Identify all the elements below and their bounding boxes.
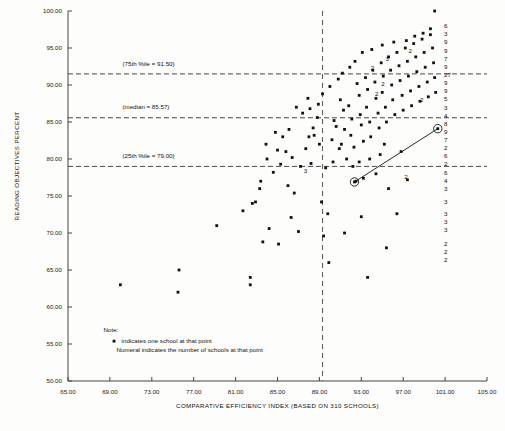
data-point [387,187,390,190]
data-point [361,51,364,54]
data-point [366,88,369,91]
numeral-count-label: 2 [444,256,448,263]
numeral-count-label: 2 [444,160,448,167]
data-point [407,75,410,78]
data-point [433,76,436,79]
data-point [369,135,372,138]
numeral-count-label: 6 [444,169,448,176]
x-axis-tick-label: 77.00 [186,388,202,395]
data-point [312,127,315,130]
data-point [304,147,307,150]
data-point [178,269,181,272]
plot-canvas: 65.0069.0073.0077.0081.0085.0089.0093.00… [0,0,505,431]
data-point [318,143,321,146]
data-point [299,165,302,168]
data-point [272,171,275,174]
x-axis-tick-label: 65.00 [60,388,76,395]
numeral-count-label: 3 [444,30,448,37]
x-axis-tick-label: 97.00 [395,388,411,395]
numeral-count-label: 3 [444,218,448,225]
x-axis-tick-label: 69.00 [102,388,118,395]
data-point [418,85,421,88]
y-axis-tick-label: 55.00 [47,340,63,347]
data-point [349,134,352,137]
data-point [412,42,415,45]
data-point [345,158,348,161]
data-point [342,109,345,112]
data-point [370,48,373,51]
numeral-count-label: 4 [444,177,448,184]
numeral-count-label: 2 [381,80,385,87]
numeral-count-label: 5 [444,95,448,102]
note-line-2: Numeral indicates the number of schools … [117,346,263,353]
data-point [380,61,383,64]
data-point [333,119,336,122]
data-point [426,81,429,84]
data-point [288,128,291,131]
data-point [374,81,377,84]
reference-line-label: (25th %ile = 79.00) [122,152,174,159]
y-axis-tick-label: 50.00 [47,377,63,384]
data-point [258,187,261,190]
x-axis-tick-label: 73.00 [144,388,160,395]
data-point [391,98,394,101]
data-point [353,146,356,149]
numeral-count-label: 3 [444,104,448,111]
numeral-count-label: 27 [444,71,451,78]
data-point [317,103,320,106]
reference-line-label: (75th %ile = 91.50) [122,60,174,67]
numeral-count-label: 9 [444,87,448,94]
data-point [368,121,371,124]
data-point [313,134,316,137]
data-point [249,276,252,279]
data-point [415,70,418,73]
data-point [291,156,294,159]
reference-line-label: (median = 85.57) [122,103,169,110]
data-point [434,91,437,94]
data-point [429,27,432,30]
data-point [276,149,279,152]
data-point [364,76,367,79]
numeral-count-label: 3 [444,210,448,217]
y-axis-tick-label: 80.00 [47,155,63,162]
data-point [261,240,264,243]
y-axis-title: READING OBJECTIVES PERCENT [13,112,20,221]
data-point [293,192,296,195]
data-point [306,97,309,100]
y-axis-tick-label: 65.00 [47,266,63,273]
data-point [340,143,343,146]
data-point [259,180,262,183]
data-point [287,184,290,187]
data-point [427,95,430,98]
data-point [406,60,409,63]
y-axis-tick-label: 75.00 [47,192,63,199]
highlighted-point-dot [436,127,439,130]
data-point [268,227,271,230]
y-axis-tick-label: 90.00 [47,81,63,88]
numeral-count-label: 9 [444,63,448,70]
data-point [328,85,331,88]
data-point [326,212,329,215]
data-point [324,166,327,169]
data-point [347,104,350,107]
data-point [382,75,385,78]
data-point [279,163,282,166]
data-point [327,261,330,264]
figure-background [0,0,505,431]
data-point [354,60,357,63]
data-point [398,64,401,67]
numeral-count-label: 7 [444,136,448,143]
y-axis-tick-label: 60.00 [47,303,63,310]
data-point [343,128,346,131]
numeral-count-label: 9 [444,79,448,86]
data-point [316,116,319,119]
data-point [337,78,340,81]
data-point [350,118,353,121]
data-point [290,216,293,219]
data-point [119,283,122,286]
numeral-count-label: 8 [444,120,448,127]
data-point [381,44,384,47]
data-point [358,94,361,97]
x-axis-tick-label: 89.00 [312,388,328,395]
numeral-count-label: 3 [304,167,308,174]
